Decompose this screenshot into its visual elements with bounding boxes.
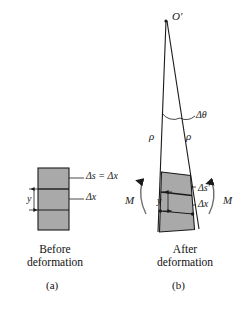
label-y-panel-a: y [27, 194, 31, 204]
dot-outer-lower [191, 212, 194, 215]
label-delta-x-panel-a: Δx [86, 192, 96, 202]
label-y-panel-b: y [157, 196, 161, 206]
moment-arrow-left [141, 182, 146, 214]
block-a-body [38, 168, 69, 230]
caption-after-line2: deformation [140, 256, 230, 269]
label-delta-s-equals-delta-x: Δs = Δx [86, 171, 118, 181]
caption-after-line1: After [140, 243, 230, 256]
label-rho-left: ρ [149, 131, 154, 142]
label-moment-left: M [125, 195, 134, 206]
panel-tag-b: (b) [172, 279, 185, 291]
label-rho-right: ρ [186, 131, 191, 142]
label-delta-x-panel-b: Δx [198, 199, 208, 209]
caption-before-line2: deformation [10, 256, 100, 269]
panel-a-undeformed-block [29, 168, 84, 230]
block-b-body [160, 172, 195, 232]
label-delta-s-prime: Δs′ [198, 183, 210, 193]
label-delta-theta: Δθ [196, 110, 207, 120]
delta-theta-arc [162, 113, 180, 119]
label-moment-right: M [223, 195, 232, 206]
caption-before-line1: Before [10, 243, 100, 256]
dot-inner-lower [159, 209, 162, 212]
label-o-prime: O′ [172, 11, 182, 22]
caption-after-deformation: After deformation [140, 243, 230, 269]
caption-before-deformation: Before deformation [10, 243, 100, 269]
panel-tag-a: (a) [46, 279, 58, 291]
